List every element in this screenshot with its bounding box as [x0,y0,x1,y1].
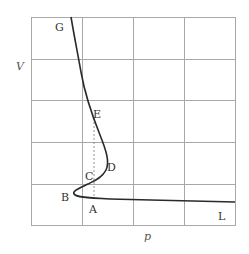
label-C: C [85,170,93,183]
label-D: D [107,161,116,174]
x-axis-label: p [144,230,151,243]
y-axis-label: V [16,60,25,73]
label-B: B [61,191,69,204]
label-E: E [93,108,101,121]
label-L: L [218,210,226,223]
label-G: G [55,21,64,34]
label-A: A [88,203,98,216]
pv-diagram: G E D C B A L V p [0,0,249,254]
